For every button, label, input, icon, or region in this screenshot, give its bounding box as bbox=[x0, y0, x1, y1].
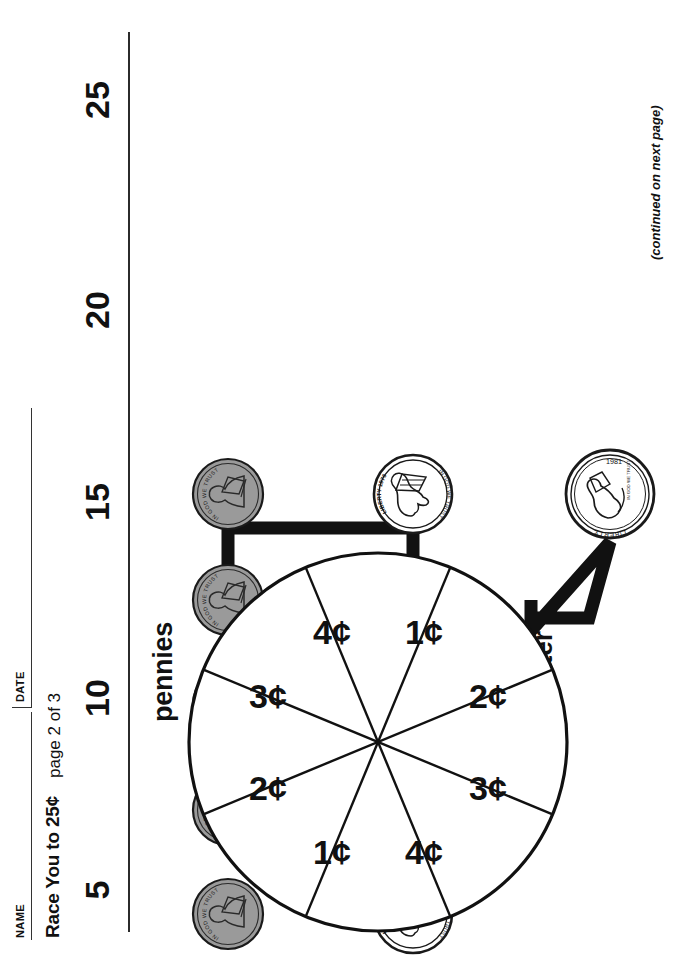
spinner-slice-label: 4¢ bbox=[314, 613, 352, 652]
page-subtitle: page 2 of 3 bbox=[45, 693, 65, 778]
worksheet-sheet: NAME DATE Race You to 25¢ page 2 of 3 51… bbox=[0, 0, 692, 960]
svg-text:1981: 1981 bbox=[606, 457, 622, 466]
nickel-coin bbox=[374, 455, 452, 533]
number-track-value: 15 bbox=[78, 472, 117, 532]
number-track-rule bbox=[128, 32, 130, 932]
spinner-slice-label: 3¢ bbox=[249, 677, 287, 716]
continued-note: (continued on next page) bbox=[648, 105, 663, 260]
name-label: NAME bbox=[14, 904, 26, 938]
spinner-slice-label: 1¢ bbox=[314, 833, 352, 872]
spinner-slice-label: 4¢ bbox=[405, 833, 443, 872]
spinner-slice-label: 2¢ bbox=[249, 768, 287, 807]
spinner-slice-label: 2¢ bbox=[469, 677, 507, 716]
name-write-line[interactable] bbox=[31, 712, 32, 940]
number-track-value: 5 bbox=[78, 860, 117, 920]
svg-text:IN GOD WE TRUST: IN GOD WE TRUST bbox=[626, 460, 631, 500]
number-track-value: 25 bbox=[78, 70, 117, 130]
spinner-svg[interactable] bbox=[178, 542, 578, 942]
number-track-value: 20 bbox=[78, 280, 117, 340]
date-label: DATE bbox=[14, 671, 26, 702]
date-divider bbox=[12, 707, 32, 708]
spinner-slice-label: 1¢ bbox=[405, 613, 443, 652]
number-track-value: 10 bbox=[78, 668, 117, 728]
worksheet-page: NAME DATE Race You to 25¢ page 2 of 3 51… bbox=[0, 0, 692, 960]
page-title: Race You to 25¢ bbox=[42, 796, 64, 938]
spinner[interactable]: 3¢4¢1¢2¢3¢4¢1¢2¢ bbox=[178, 542, 578, 942]
spinner-slice-label: 3¢ bbox=[469, 768, 507, 807]
date-write-line[interactable] bbox=[31, 408, 32, 708]
